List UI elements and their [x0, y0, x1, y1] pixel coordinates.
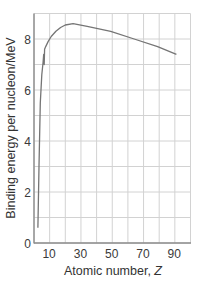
x-tick-label: 70	[136, 247, 150, 261]
x-tick-label: 30	[74, 247, 88, 261]
y-tick-label: 4	[24, 135, 31, 149]
y-tick-labels: 02468	[24, 33, 31, 251]
binding-energy-chart: 1030507090 02468 Atomic number, Z Bindin…	[0, 0, 201, 286]
vertical-gridlines	[34, 14, 191, 244]
y-tick-label: 8	[24, 33, 31, 47]
y-tick-label: 6	[24, 84, 31, 98]
x-axis-label: Atomic number, Z	[64, 264, 162, 278]
x-tick-label: 90	[168, 247, 182, 261]
x-axis-label-variable: Z	[153, 264, 162, 278]
y-axis-label: Binding energy per nucleon/MeV	[4, 37, 18, 219]
x-tick-label: 50	[105, 247, 119, 261]
x-axis-label-text: Atomic number,	[64, 264, 154, 278]
y-tick-label: 2	[24, 186, 31, 200]
binding-energy-curve	[38, 24, 177, 228]
x-tick-labels: 1030507090	[42, 247, 181, 261]
y-tick-label: 0	[24, 237, 31, 251]
x-tick-label: 10	[42, 247, 56, 261]
